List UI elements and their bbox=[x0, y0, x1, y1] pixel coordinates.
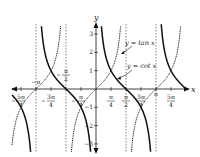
svg-text:π: π bbox=[64, 67, 68, 74]
svg-text:4: 4 bbox=[169, 101, 173, 108]
cot-arrowhead bbox=[117, 77, 121, 80]
x-tick-fraction: π4 bbox=[107, 93, 115, 108]
y-tick-label: 2 bbox=[89, 48, 93, 55]
y-tick-label: −2 bbox=[84, 122, 93, 129]
svg-text:4: 4 bbox=[49, 101, 53, 108]
x-tick-fraction: 3π4 bbox=[42, 93, 55, 108]
x-tick-label: π bbox=[154, 90, 158, 97]
svg-text:π: π bbox=[79, 93, 83, 100]
x-tick-fraction: 5π4 bbox=[12, 93, 25, 108]
tan-curve-branch bbox=[12, 26, 61, 145]
tan-label: y = tan x bbox=[124, 39, 155, 47]
tan-cot-graph: 5π4−π3π4π2π4π4π23π4π5π4−3−2−1123 x y y =… bbox=[0, 0, 200, 157]
y-axis-arrow-down bbox=[94, 148, 99, 154]
x-axis-arrow-left bbox=[11, 87, 17, 92]
svg-text:4: 4 bbox=[139, 101, 143, 108]
y-axis-label: y bbox=[93, 13, 99, 22]
x-tick-fraction: π2 bbox=[122, 93, 130, 108]
svg-text:4: 4 bbox=[109, 101, 113, 108]
tan-arrowhead bbox=[121, 51, 125, 54]
y-tick-label: 1 bbox=[89, 67, 93, 74]
y-tick-label: −3 bbox=[84, 140, 93, 147]
svg-text:2: 2 bbox=[124, 101, 128, 108]
x-tick-fraction: π4 bbox=[72, 93, 85, 108]
svg-text:5π: 5π bbox=[167, 93, 175, 100]
cot-annotation-arrow bbox=[119, 70, 132, 78]
y-axis-arrow-up bbox=[94, 22, 99, 28]
y-tick-label: −1 bbox=[84, 103, 93, 110]
cot-label: y = cot x bbox=[126, 62, 156, 70]
svg-text:5π: 5π bbox=[17, 93, 25, 100]
curves bbox=[12, 24, 186, 152]
svg-text:2: 2 bbox=[64, 75, 68, 82]
x-tick-label: −π bbox=[32, 78, 41, 85]
x-axis-label: x bbox=[191, 85, 196, 94]
svg-text:π: π bbox=[124, 93, 128, 100]
svg-text:3π: 3π bbox=[47, 93, 55, 100]
svg-text:4: 4 bbox=[79, 101, 83, 108]
y-tick-label: 3 bbox=[89, 30, 93, 37]
x-tick-fraction: 3π4 bbox=[137, 93, 145, 108]
svg-text:π: π bbox=[109, 93, 113, 100]
x-tick-fraction: π2 bbox=[57, 67, 70, 82]
svg-text:4: 4 bbox=[19, 101, 23, 108]
svg-text:3π: 3π bbox=[137, 93, 145, 100]
x-tick-fraction: 5π4 bbox=[167, 93, 175, 108]
